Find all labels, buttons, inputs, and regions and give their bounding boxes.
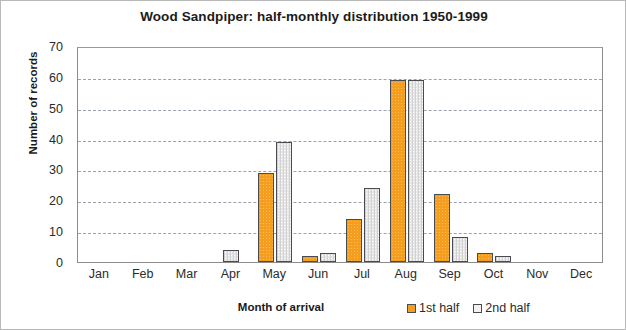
month-group [78, 48, 122, 262]
chart-legend: 1st half 2nd half [407, 301, 530, 315]
x-axis-tick-label: Apr [209, 267, 253, 281]
month-group [385, 48, 429, 262]
y-axis-tick-labels: 010203040506070 [1, 47, 71, 263]
legend-label-second-half: 2nd half [485, 301, 529, 315]
bar [302, 256, 318, 262]
legend-label-first-half: 1st half [419, 301, 459, 315]
month-group [210, 48, 254, 262]
bar [320, 253, 336, 262]
x-axis-tick-label: Jan [77, 267, 121, 281]
bar [408, 80, 424, 262]
x-axis-tick-label: Mar [165, 267, 209, 281]
month-group [297, 48, 341, 262]
y-axis-tick-label: 40 [3, 133, 63, 147]
chart-title: Wood Sandpiper: half-monthly distributio… [1, 9, 626, 24]
bar [434, 194, 450, 262]
plot-area [77, 47, 603, 263]
y-axis-tick-label: 0 [3, 256, 63, 270]
month-group [253, 48, 297, 262]
bar [495, 256, 511, 262]
x-axis-title: Month of arrival [161, 301, 401, 313]
bar [346, 219, 362, 262]
bar [452, 237, 468, 262]
bar [223, 250, 239, 262]
y-axis-tick-label: 10 [3, 225, 63, 239]
x-axis-tick-label: Oct [472, 267, 516, 281]
y-axis-tick-label: 20 [3, 194, 63, 208]
month-group [341, 48, 385, 262]
x-axis-tick-label: Feb [121, 267, 165, 281]
x-axis-tick-label: Dec [559, 267, 603, 281]
y-axis-tick-label: 30 [3, 163, 63, 177]
x-axis-tick-label: Nov [515, 267, 559, 281]
x-axis-tick-label: May [252, 267, 296, 281]
month-group [429, 48, 473, 262]
x-axis-tick-labels: JanFebMarAprMayJunJulAugSepOctNovDec [77, 267, 603, 289]
bar [276, 142, 292, 262]
month-group [166, 48, 210, 262]
legend-entry-second-half: 2nd half [473, 301, 529, 315]
chart-page: Wood Sandpiper: half-monthly distributio… [0, 0, 626, 330]
legend-swatch-icon-first-half [407, 304, 416, 313]
x-axis-tick-label: Jul [340, 267, 384, 281]
x-axis-tick-label: Jun [296, 267, 340, 281]
bar [364, 188, 380, 262]
y-axis-tick-label: 50 [3, 102, 63, 116]
x-axis-tick-label: Aug [384, 267, 428, 281]
bar [390, 80, 406, 262]
month-group [473, 48, 517, 262]
x-axis-tick-label: Sep [428, 267, 472, 281]
bar [477, 253, 493, 262]
y-axis-tick-label: 70 [3, 40, 63, 54]
legend-entry-first-half: 1st half [407, 301, 459, 315]
month-group [516, 48, 560, 262]
bars-layer [78, 48, 602, 262]
legend-swatch-icon-second-half [473, 304, 482, 313]
month-group [122, 48, 166, 262]
y-axis-tick-label: 60 [3, 71, 63, 85]
month-group [560, 48, 604, 262]
bar [258, 173, 274, 262]
